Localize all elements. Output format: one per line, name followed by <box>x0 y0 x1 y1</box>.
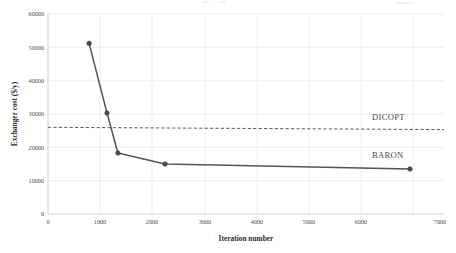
x-tick-4000: 4000 <box>251 218 263 225</box>
data-point-marker <box>163 162 168 167</box>
data-point-marker <box>87 41 92 46</box>
y-tick-30000: 30000 <box>29 110 44 117</box>
exchanger-cost-line-chart: 0 10000 20000 30000 40000 50000 60000 0 … <box>0 0 456 253</box>
chart-container: 0 10000 20000 30000 40000 50000 60000 0 … <box>0 0 456 253</box>
y-tick-10000: 10000 <box>29 177 44 184</box>
dicopt-series-label: DICOPT <box>372 112 405 122</box>
y-tick-50000: 50000 <box>29 44 44 51</box>
x-tick-0: 0 <box>46 218 49 225</box>
y-tick-20000: 20000 <box>29 144 44 151</box>
x-tick-5000: 5000 <box>303 218 315 225</box>
y-tick-40000: 40000 <box>29 77 44 84</box>
y-axis-title: Exchanger cost ($/y) <box>10 81 19 146</box>
x-axis-title: Iteration number <box>219 234 275 243</box>
baron-series-label: BARON <box>372 150 404 160</box>
x-tick-2000: 2000 <box>146 218 158 225</box>
y-tick-0: 0 <box>41 210 44 217</box>
chart-background <box>0 0 456 253</box>
data-point-marker <box>116 151 121 156</box>
x-tick-6000: 6000 <box>355 218 367 225</box>
y-tick-60000: 60000 <box>29 10 44 17</box>
x-tick-3000: 3000 <box>199 218 211 225</box>
x-tick-1000: 1000 <box>94 218 106 225</box>
data-point-marker <box>408 167 413 172</box>
x-tick-7000: 7000 <box>434 218 446 225</box>
data-point-marker <box>105 111 110 116</box>
